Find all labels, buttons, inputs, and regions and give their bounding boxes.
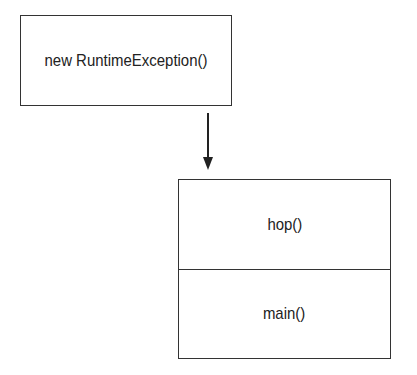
call-stack: hop() main() bbox=[178, 179, 391, 359]
stack-frame-main: main() bbox=[179, 269, 390, 358]
stack-frame-label: hop() bbox=[267, 215, 302, 235]
stack-frame-hop: hop() bbox=[179, 180, 390, 269]
stack-frame-label: main() bbox=[263, 304, 305, 324]
